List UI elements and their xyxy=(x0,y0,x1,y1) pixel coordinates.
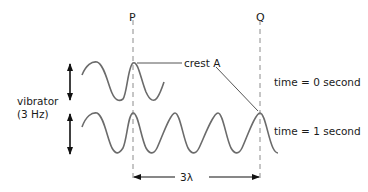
label-vibrator: vibrator xyxy=(17,95,58,107)
label-vibrator-frequency: (3 Hz) xyxy=(17,108,49,120)
label-time-0: time = 0 second xyxy=(274,76,361,88)
wave-time-0 xyxy=(82,62,164,100)
wave-time-1 xyxy=(82,113,278,153)
crest-a-leader-bottom xyxy=(216,67,258,111)
label-q: Q xyxy=(256,12,265,24)
label-crest-a: crest A xyxy=(184,57,220,69)
label-distance-3-lambda: 3λ xyxy=(180,171,193,183)
label-time-1: time = 1 second xyxy=(274,125,361,137)
label-p: P xyxy=(129,12,136,24)
